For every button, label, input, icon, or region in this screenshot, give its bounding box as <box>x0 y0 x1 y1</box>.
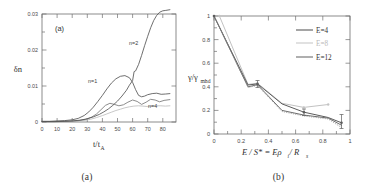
panel-a-xtick-6: 60 <box>130 126 136 132</box>
legend-label-e8: E=8 <box>316 40 328 48</box>
panel-b-xtick-5: 1 <box>348 138 351 144</box>
panel-a-label-n2: n=2 <box>129 40 138 46</box>
panel-a-ytick-0: 0 <box>35 119 38 125</box>
panel-b-ytick-0: 0 <box>207 131 210 137</box>
panel-a-x-axis-title: t/t A <box>93 139 105 151</box>
panel-b-x-axis-title-main: E / S* = Eρ <box>241 147 282 157</box>
panel-a-xtick-3: 30 <box>84 126 90 132</box>
panel-a-inset-tag: (a) <box>55 24 64 33</box>
panel-b-x-axis-title-mid: / R <box>289 147 300 157</box>
panel-b-xtick-1: 0.2 <box>237 138 245 144</box>
panel-b-y-axis-title-sub: mhd <box>201 78 211 84</box>
panel-b-xtick-3: 0.6 <box>292 138 300 144</box>
panel-b-ytick-2: 0.4 <box>202 84 210 90</box>
panel-b-ytick-1: 0.2 <box>202 107 210 113</box>
panel-b-xtick-2: 0.4 <box>265 138 273 144</box>
panel-a-y-axis-title: δn <box>14 64 23 74</box>
panel-a: 0 0.01 0.02 0.03 0 10 20 30 40 50 60 70 … <box>0 0 186 185</box>
panel-a-x-axis-title-sub: A <box>101 145 105 151</box>
panel-b-x-ticks <box>214 16 350 134</box>
panel-a-xtick-8: 80 <box>160 126 166 132</box>
panel-a-ytick-3: 0.03 <box>28 11 39 17</box>
panel-b-y-ticks <box>214 16 350 134</box>
panel-b-y-axis-title-main: γ/γ <box>187 72 198 82</box>
panel-b: 0 0.2 0.4 0.6 0.8 1 0 0.2 0.4 0.6 0.8 1 … <box>186 0 367 185</box>
panel-b-ytick-4: 0.8 <box>202 37 210 43</box>
panel-a-plot: 0 0.01 0.02 0.03 0 10 20 30 40 50 60 70 … <box>0 0 186 165</box>
panel-a-xtick-1: 10 <box>54 126 60 132</box>
panel-b-x-axis-title-sub2: s <box>306 153 308 159</box>
panel-b-axes-frame <box>214 16 350 134</box>
panel-b-caption: (b) <box>188 172 367 182</box>
panel-a-xtick-0: 0 <box>41 126 44 132</box>
panel-b-xtick-4: 0.8 <box>319 138 327 144</box>
panel-a-xtick-4: 40 <box>99 126 105 132</box>
panel-a-ytick-1: 0.01 <box>28 83 39 89</box>
panel-b-y-axis-title: γ/γ mhd <box>187 72 211 84</box>
panel-b-x-axis-title: E / S* = Eρ i / R s <box>241 147 308 159</box>
panel-a-label-n1: n=1 <box>88 78 97 84</box>
panel-b-plot: 0 0.2 0.4 0.6 0.8 1 0 0.2 0.4 0.6 0.8 1 … <box>186 0 367 165</box>
panel-b-ytick-5: 1 <box>207 13 210 19</box>
legend-label-e4: E=4 <box>316 27 328 35</box>
panel-a-x-axis-title-main: t/t <box>93 139 101 149</box>
figure-root: 0 0.01 0.02 0.03 0 10 20 30 40 50 60 70 … <box>0 0 367 185</box>
panel-b-xtick-0: 0 <box>212 138 215 144</box>
legend-label-e12: E=12 <box>316 54 332 62</box>
panel-b-legend: E=4 E=8 E=12 <box>296 27 332 62</box>
panel-a-xtick-5: 50 <box>115 126 121 132</box>
panel-a-ytick-2: 0.02 <box>28 47 39 53</box>
panel-a-caption: (a) <box>0 172 180 182</box>
panel-a-xtick-2: 20 <box>69 126 75 132</box>
panel-a-label-n4: n=4 <box>148 103 157 109</box>
panel-b-ytick-3: 0.6 <box>202 60 210 66</box>
panel-a-xtick-7: 70 <box>145 126 151 132</box>
panel-b-errorbars <box>256 81 344 129</box>
